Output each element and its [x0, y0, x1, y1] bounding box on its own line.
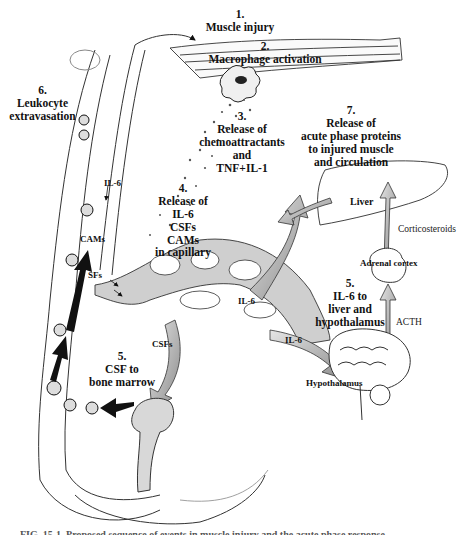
step-5-liver-label: 5. IL-6 to liver and hypothalamus	[305, 277, 395, 329]
step-2-label: 2. Macrophage activation	[200, 40, 330, 66]
il6-upper-label: IL-6	[238, 296, 255, 306]
step-6-label: 6. Leukocyte extravasation	[5, 84, 80, 123]
step-5-bone-marrow-label: 5. CSF to bone marrow	[72, 350, 172, 389]
hypothalamus-label: Hypothalamus	[306, 378, 363, 388]
liver-label: Liver	[350, 196, 373, 207]
il6-lower-label: IL-6	[285, 335, 302, 345]
figure-caption: FIG. 15-1. Proposed sequence of events i…	[20, 528, 460, 535]
sfs-label: SFs	[88, 270, 102, 280]
csfs-capillary-label: CSFs	[152, 339, 173, 349]
corticosteroids-label: Corticosteroids	[398, 224, 456, 234]
acth-label: ACTH	[396, 317, 422, 327]
step-7-label: 7. Release of acute phase proteins to in…	[300, 104, 402, 168]
femur-bone-icon	[132, 398, 174, 492]
step-1-label: 1. Muscle injury	[185, 8, 295, 34]
step-4-label: 4. Release of IL-6 CSFs CAMs in capillar…	[143, 182, 223, 259]
diagram-canvas: 1. Muscle injury 2. Macrophage activatio…	[0, 0, 466, 535]
step-3-label: 3. Release of chemoattractants and TNF+I…	[192, 110, 292, 174]
adrenal-cortex-label: Adrenal cortex	[360, 258, 418, 268]
cams-label: CAMs	[80, 234, 105, 244]
il6-vessel-label: IL-6	[104, 178, 121, 188]
lower-vessel-loop	[75, 475, 265, 524]
brain-icon	[329, 329, 410, 420]
